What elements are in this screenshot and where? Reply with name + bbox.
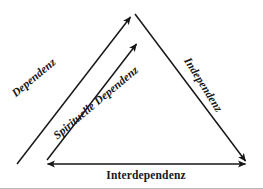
bottom-frame-divider <box>0 188 263 189</box>
diagram-canvas <box>0 0 263 189</box>
right-side-arrow <box>135 14 246 161</box>
triangle-diagram: Dependenz Spirituelle Dependenz Independ… <box>0 0 263 189</box>
label-interdependenz: Interdependenz <box>106 170 185 182</box>
